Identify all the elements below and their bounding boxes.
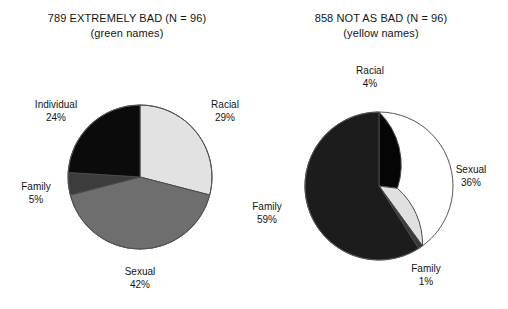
pie-label-right-family-large-pct: 59% [232,213,302,226]
chart-title-right-line2: (yellow names) [254,26,508,41]
pie-label-left-family-name: Family [21,181,50,192]
pie-label-right-family-large: Family 59% [232,200,302,226]
pie-slice-right-racial [379,112,401,188]
pie-label-left-individual-name: Individual [35,99,77,110]
pie-label-left-family: Family 5% [6,180,66,206]
pie-label-right-racial: Racial 4% [340,64,400,90]
pie-label-right-racial-name: Racial [356,65,384,76]
pie-label-left-individual: Individual 24% [20,98,92,124]
pie-label-right-sexual-name: Sexual [456,164,487,175]
pie-label-left-racial-name: Racial [211,99,239,110]
chart-title-left: 789 EXTREMELY BAD (N = 96) (green names) [0,11,254,41]
chart-panel-right: 858 NOT AS BAD (N = 96) (yellow names) R… [254,0,508,309]
pie-label-left-sexual: Sexual 42% [104,265,176,291]
pie-label-right-family-small-pct: 1% [396,275,456,288]
chart-title-right-line1: 858 NOT AS BAD (N = 96) [315,12,448,24]
pie-label-right-sexual-pct: 36% [441,176,501,189]
pie-chart-left [66,103,214,251]
pie-label-right-family-large-name: Family [252,201,281,212]
pie-label-right-racial-pct: 4% [340,77,400,90]
figure-canvas: 789 EXTREMELY BAD (N = 96) (green names)… [0,0,508,309]
pie-label-right-sexual: Sexual 36% [441,163,501,189]
chart-title-left-line2: (green names) [0,26,254,41]
pie-label-left-individual-pct: 24% [20,111,92,124]
pie-chart-right [303,110,455,262]
pie-label-left-racial: Racial 29% [196,98,254,124]
pie-label-left-sexual-name: Sexual [125,266,156,277]
pie-slice-right-family-large [305,112,419,260]
pie-label-right-family-small: Family 1% [396,262,456,288]
pie-label-left-family-pct: 5% [6,193,66,206]
pie-label-left-racial-pct: 29% [196,111,254,124]
chart-title-right: 858 NOT AS BAD (N = 96) (yellow names) [254,11,508,41]
pie-label-right-family-small-name: Family [411,263,440,274]
chart-panel-left: 789 EXTREMELY BAD (N = 96) (green names)… [0,0,254,309]
pie-label-left-sexual-pct: 42% [104,278,176,291]
chart-title-left-line1: 789 EXTREMELY BAD (N = 96) [48,12,206,24]
